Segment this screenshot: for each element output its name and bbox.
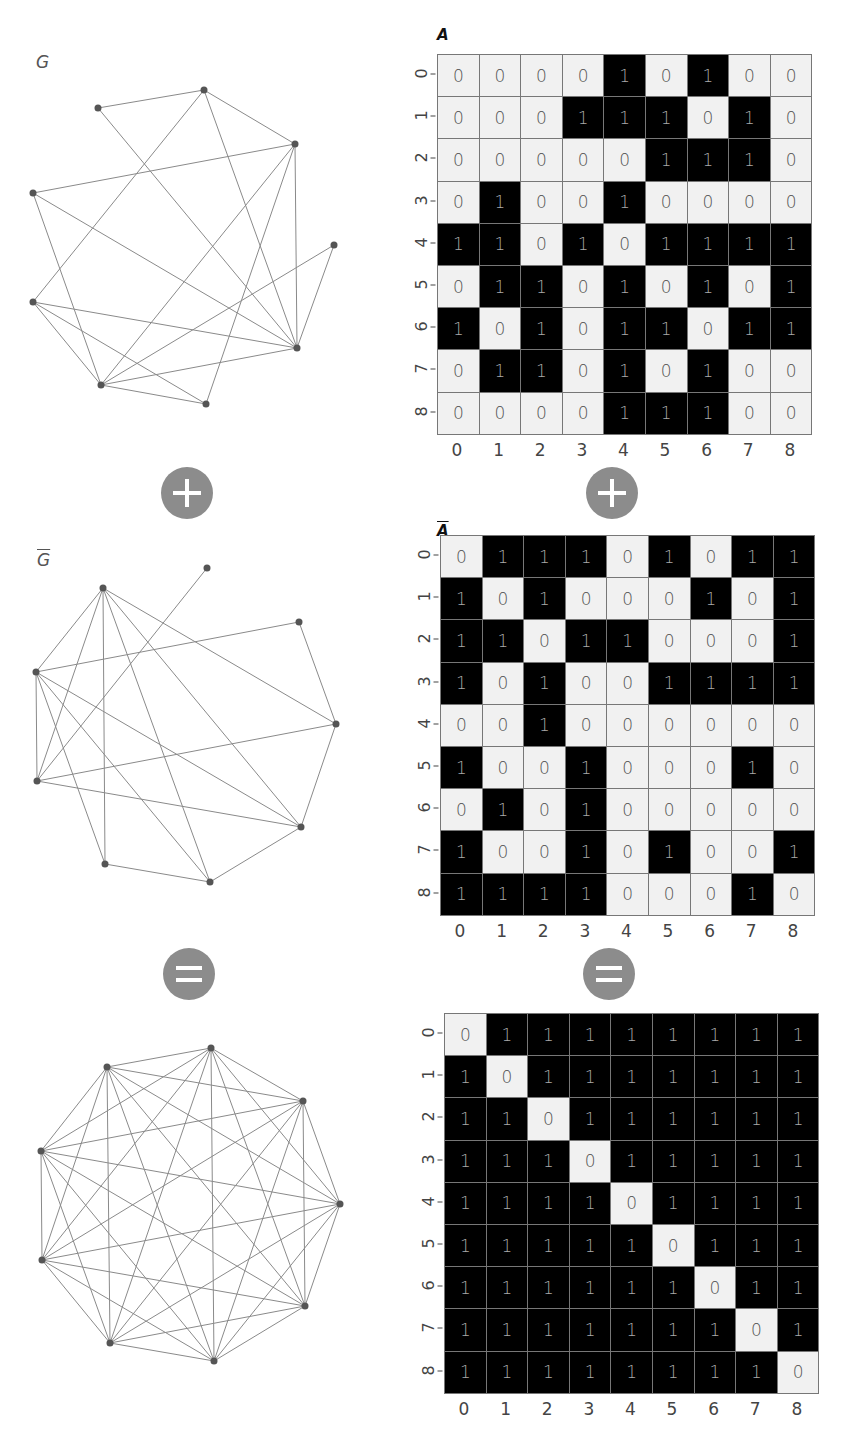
graph-edge (41, 1101, 303, 1151)
matrix-cell: 1 (778, 1141, 819, 1182)
matrix-cell: 1 (487, 1267, 528, 1308)
matrix-cell: 1 (778, 1309, 819, 1350)
matrix-cell: 0 (438, 139, 479, 180)
row-tick-label: 8 (415, 882, 434, 902)
matrix-cell: 1 (445, 1225, 486, 1266)
column-tick-label: 8 (780, 440, 800, 460)
matrix-cell: 1 (521, 350, 562, 391)
graph-edge (42, 1204, 340, 1260)
matrix-cell: 0 (688, 97, 729, 138)
matrix-cell: 1 (732, 747, 773, 788)
matrix-cell: 1 (521, 266, 562, 307)
matrix-cell: 0 (438, 97, 479, 138)
matrix-cell: 1 (646, 97, 687, 138)
matrix-cell: 0 (774, 747, 815, 788)
matrix-cell: 1 (563, 97, 604, 138)
matrix-cell: 0 (441, 536, 482, 577)
matrix-cell: 1 (653, 1098, 694, 1139)
matrix-cell: 1 (441, 663, 482, 704)
matrix-cell: 1 (653, 1309, 694, 1350)
graph-edge (110, 1048, 211, 1343)
matrix-cell: 1 (566, 747, 607, 788)
matrix-cell: 1 (445, 1183, 486, 1224)
column-tick-label: 1 (496, 1399, 516, 1419)
matrix-cell: 1 (445, 1267, 486, 1308)
row-tick-label: 6 (412, 317, 431, 337)
matrix-cell: 1 (441, 874, 482, 915)
matrix-cell: 0 (691, 874, 732, 915)
matrix-cell: 0 (729, 266, 770, 307)
column-tick-label: 0 (447, 440, 467, 460)
matrix-cell: 1 (604, 350, 645, 391)
row-tick-label: 4 (412, 232, 431, 252)
matrix-cell: 1 (441, 578, 482, 619)
row-tick-label: 8 (412, 401, 431, 421)
graph-edge (305, 1204, 340, 1306)
matrix-cell: 1 (487, 1014, 528, 1055)
matrix-cell: 0 (646, 266, 687, 307)
row-tick-label: 3 (412, 190, 431, 210)
matrix-cell: 1 (524, 705, 565, 746)
matrix-cell: 1 (528, 1056, 569, 1097)
matrix-cell: 1 (732, 536, 773, 577)
matrix-cell: 0 (563, 182, 604, 223)
row-tick-label: 1 (419, 1065, 438, 1085)
row-tick-label: 1 (415, 587, 434, 607)
matrix-cell: 1 (528, 1141, 569, 1182)
matrix-cell: 0 (441, 789, 482, 830)
column-tick-label: 4 (620, 1399, 640, 1419)
matrix-cell: 0 (607, 663, 648, 704)
graph-edge (107, 1067, 110, 1343)
column-tick-label: 1 (492, 921, 512, 941)
matrix-cell: 1 (483, 789, 524, 830)
matrix-cell: 0 (566, 663, 607, 704)
matrix-cell: 0 (649, 578, 690, 619)
matrix-cell: 1 (604, 182, 645, 223)
row-tick-label: 1 (412, 106, 431, 126)
matrix-cell: 1 (487, 1309, 528, 1350)
matrix-cell: 0 (649, 705, 690, 746)
row-tick-label: 2 (412, 148, 431, 168)
matrix-cell: 0 (480, 308, 521, 349)
matrix-cell: 0 (521, 97, 562, 138)
matrix-cell: 1 (528, 1225, 569, 1266)
matrix-cell: 0 (563, 139, 604, 180)
matrix-cell: 0 (483, 831, 524, 872)
matrix-cell: 1 (736, 1183, 777, 1224)
row-tick-label: 5 (415, 756, 434, 776)
graph-edge (42, 1101, 303, 1260)
matrix-cell: 1 (528, 1352, 569, 1393)
equals-icon (583, 948, 635, 1000)
matrix-cell: 1 (445, 1352, 486, 1393)
graph-node (337, 1201, 344, 1208)
matrix-cell: 0 (524, 789, 565, 830)
column-tick-label: 6 (697, 440, 717, 460)
matrix-cell: 1 (771, 266, 812, 307)
column-tick-label: 0 (450, 921, 470, 941)
matrix-cell: 1 (736, 1141, 777, 1182)
row-tick-label: 7 (412, 359, 431, 379)
matrix-cell: 0 (695, 1267, 736, 1308)
matrix-cell: 1 (524, 874, 565, 915)
matrix-cell: 1 (480, 182, 521, 223)
matrix-cell: 1 (445, 1098, 486, 1139)
graph-edge (214, 1204, 340, 1361)
matrix-cell: 1 (570, 1183, 611, 1224)
matrix-cell: 1 (778, 1267, 819, 1308)
graph-edge (41, 1151, 214, 1361)
matrix-cell: 0 (566, 705, 607, 746)
matrix-cell: 1 (649, 831, 690, 872)
matrix-cell: 0 (563, 266, 604, 307)
column-tick-label: 6 (704, 1399, 724, 1419)
matrix-cell: 1 (483, 620, 524, 661)
matrix-cell: 0 (483, 663, 524, 704)
matrix-cell: 1 (688, 350, 729, 391)
matrix-cell: 1 (611, 1056, 652, 1097)
matrix-cell: 1 (445, 1141, 486, 1182)
graph-node (211, 1358, 218, 1365)
matrix-cell: 1 (774, 620, 815, 661)
column-tick-label: 2 (533, 921, 553, 941)
matrix-cell: 0 (607, 747, 648, 788)
matrix-cell: 1 (611, 1352, 652, 1393)
matrix-cell: 0 (688, 182, 729, 223)
